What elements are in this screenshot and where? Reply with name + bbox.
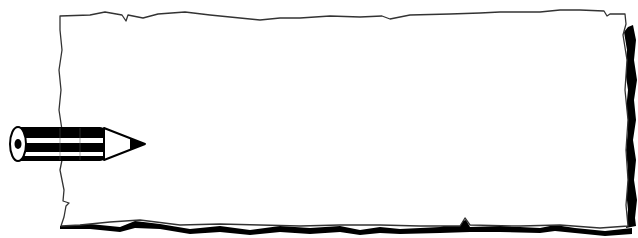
torn-paper-banner [0, 0, 638, 238]
top-caption [40, 0, 200, 4]
paper-body [59, 10, 628, 228]
